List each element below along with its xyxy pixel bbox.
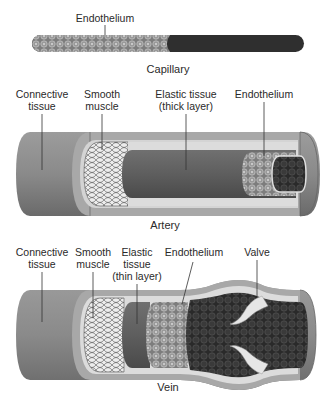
vein-connective-label-2: tissue: [28, 258, 56, 270]
capillary-group: Endothelium Capillary: [32, 12, 304, 75]
vein-group: Connective tissue Smooth muscle Elastic …: [16, 246, 316, 393]
vein-smooth-label-2: muscle: [76, 258, 109, 270]
vein-elastic-label-2: tissue: [123, 258, 151, 270]
capillary-caption: Capillary: [147, 63, 190, 75]
artery-smooth-label-1: Smooth: [84, 88, 120, 100]
vein-endothelium: [146, 302, 188, 368]
capillary-endothelium: [32, 35, 170, 52]
vein-smooth-label-1: Smooth: [75, 246, 111, 258]
vein-caption: Vein: [157, 381, 178, 393]
vein-lumen: [186, 293, 308, 378]
artery-caption: Artery: [150, 219, 180, 231]
blood-vessel-diagram: Endothelium Capillary Connective tissue …: [0, 0, 328, 398]
artery-connective-label-2: tissue: [28, 100, 56, 112]
artery-connective-label-1: Connective: [16, 88, 69, 100]
vein-valve-label: Valve: [244, 246, 270, 258]
vein-elastic-label-1: Elastic: [122, 246, 153, 258]
capillary-endothelium-label: Endothelium: [76, 12, 135, 24]
artery-smooth-muscle: [84, 142, 128, 206]
artery-lumen: [272, 156, 306, 192]
vein-connective-label-1: Connective: [16, 246, 69, 258]
vein-endothelium-label: Endothelium: [165, 246, 224, 258]
vein-smooth-muscle: [84, 298, 124, 372]
artery-elastic-label-2: (thick layer): [159, 100, 213, 112]
vein-elastic-tissue: [122, 302, 150, 368]
artery-endothelium-label: Endothelium: [235, 88, 294, 100]
vein-elastic-label-3: (thin layer): [112, 270, 162, 282]
artery-smooth-label-2: muscle: [85, 100, 118, 112]
artery-group: Connective tissue Smooth muscle Elastic …: [16, 88, 320, 231]
artery-elastic-label-1: Elastic tissue: [155, 88, 216, 100]
